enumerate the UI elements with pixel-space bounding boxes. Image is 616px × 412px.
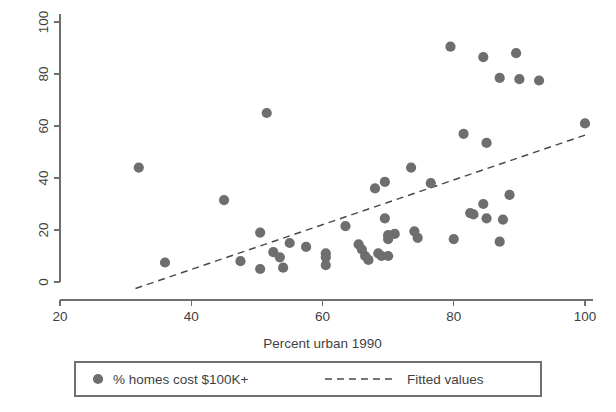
x-tick-label: 80 xyxy=(446,309,461,324)
legend-circle-icon xyxy=(93,374,103,384)
scatter-point xyxy=(363,255,373,265)
scatter-point xyxy=(478,199,488,209)
scatter-point xyxy=(262,108,272,118)
x-tick-label: 100 xyxy=(574,309,597,324)
scatter-point xyxy=(321,260,331,270)
scatter-point xyxy=(380,177,390,187)
scatter-point xyxy=(380,213,390,223)
scatter-point xyxy=(390,229,400,239)
x-axis-ticks: 20406080100 xyxy=(52,300,596,324)
scatter-point xyxy=(514,74,524,84)
scatter-point xyxy=(278,263,288,273)
y-tick-label: 20 xyxy=(36,222,51,237)
scatter-point xyxy=(301,242,311,252)
scatter-point xyxy=(495,237,505,247)
x-tick-label: 60 xyxy=(315,309,330,324)
x-tick-label: 20 xyxy=(52,309,67,324)
scatter-point xyxy=(511,48,521,58)
y-tick-label: 40 xyxy=(36,170,51,185)
y-axis-ticks: 020406080100 xyxy=(36,11,61,286)
scatter-point xyxy=(383,251,393,261)
scatter-point xyxy=(468,209,478,219)
legend-label-scatter: % homes cost $100K+ xyxy=(113,372,249,387)
scatter-point xyxy=(580,118,590,128)
scatter-point xyxy=(445,42,455,52)
x-axis-title: Percent urban 1990 xyxy=(263,336,382,351)
scatter-point xyxy=(504,190,514,200)
scatter-point xyxy=(406,163,416,173)
y-tick-label: 100 xyxy=(36,11,51,34)
scatter-point xyxy=(481,138,491,148)
x-tick-label: 40 xyxy=(184,309,199,324)
scatter-plot-figure: 020406080100 20406080100 Percent urban 1… xyxy=(0,0,616,412)
scatter-point xyxy=(255,264,265,274)
y-tick-label: 60 xyxy=(36,118,51,133)
y-tick-label: 80 xyxy=(36,66,51,81)
scatter-point xyxy=(255,228,265,238)
scatter-point xyxy=(481,213,491,223)
scatter-point xyxy=(534,75,544,85)
data-points xyxy=(134,42,590,275)
chart-canvas: 020406080100 20406080100 Percent urban 1… xyxy=(0,0,616,412)
scatter-point xyxy=(478,52,488,62)
scatter-point xyxy=(134,163,144,173)
scatter-point xyxy=(426,178,436,188)
scatter-point xyxy=(340,221,350,231)
scatter-point xyxy=(413,233,423,243)
scatter-point xyxy=(285,238,295,248)
scatter-point xyxy=(275,252,285,262)
scatter-point xyxy=(495,73,505,83)
scatter-point xyxy=(458,129,468,139)
legend: % homes cost $100K+ Fitted values xyxy=(75,362,541,396)
regression-line xyxy=(135,135,585,288)
scatter-point xyxy=(370,183,380,193)
scatter-point xyxy=(160,257,170,267)
scatter-point xyxy=(449,234,459,244)
scatter-point xyxy=(498,215,508,225)
legend-label-fitted: Fitted values xyxy=(407,372,484,387)
scatter-point xyxy=(235,256,245,266)
scatter-point xyxy=(219,195,229,205)
fitted-values-line xyxy=(135,135,585,288)
y-tick-label: 0 xyxy=(36,278,51,286)
